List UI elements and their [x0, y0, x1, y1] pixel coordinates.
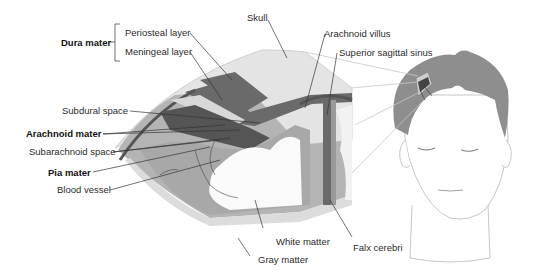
label-falx-cerebri: Falx cerebri — [353, 242, 403, 253]
brain-section — [115, 50, 352, 226]
label-white-matter: White matter — [276, 236, 330, 247]
falx-cerebri-shape — [323, 100, 331, 205]
label-gray-matter: Gray matter — [258, 254, 308, 265]
label-periosteal-layer: Periosteal layer — [125, 27, 190, 38]
label-subdural-space: Subdural space — [62, 105, 128, 116]
label-arachnoid-villus: Arachnoid villus — [324, 28, 391, 39]
label-arachnoid-mater: Arachnoid mater — [26, 128, 102, 139]
label-dura-mater: Dura mater — [61, 37, 111, 48]
label-meningeal-layer: Meningeal layer — [125, 46, 192, 57]
meninges-diagram: Dura mater Periosteal layer Meningeal la… — [0, 0, 533, 275]
label-blood-vessel: Blood vessel — [57, 184, 111, 195]
label-pia-mater: Pia mater — [48, 167, 91, 178]
label-subarachnoid-space: Subarachnoid space — [29, 146, 116, 157]
label-superior-sagittal-sinus: Superior sagittal sinus — [339, 47, 432, 58]
label-skull: Skull — [247, 12, 268, 23]
